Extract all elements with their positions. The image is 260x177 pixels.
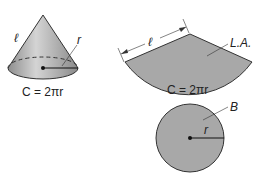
cone-circumference-label: C = 2πr [22, 85, 63, 99]
lateral-area-label: L.A. [230, 36, 251, 50]
cone-figure [8, 15, 78, 79]
slant-extension-right [183, 19, 189, 33]
base-label: B [230, 100, 238, 114]
slant-arrowhead-right [179, 27, 186, 32]
slant-arrowhead-left [121, 49, 128, 54]
cone-surface-area-diagram: ℓ r C = 2πr ℓ L.A. C = 2πr B r [0, 0, 260, 177]
cone-slant-label: ℓ [14, 31, 19, 45]
net-circumference-label: C = 2πr [167, 83, 208, 97]
diagram-canvas: ℓ r C = 2πr ℓ L.A. C = 2πr B r [0, 0, 260, 177]
cone-radius-label: r [77, 33, 82, 47]
slant-extension-left [118, 48, 124, 62]
net-slant-label: ℓ [148, 35, 153, 49]
